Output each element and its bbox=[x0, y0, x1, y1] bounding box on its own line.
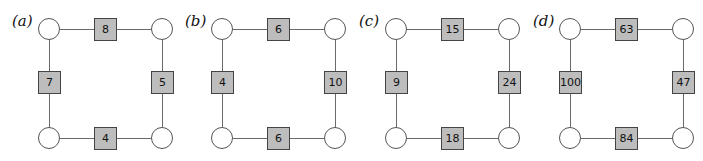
node-bottom-right bbox=[672, 127, 694, 149]
weight-right: 24 bbox=[498, 71, 521, 94]
weight-left: 9 bbox=[385, 71, 408, 94]
weight-left: 4 bbox=[211, 71, 234, 94]
weight-top: 15 bbox=[441, 18, 464, 41]
panel-d: (d) 63 100 47 84 bbox=[521, 0, 695, 161]
node-top-left bbox=[211, 18, 233, 40]
weight-right: 5 bbox=[151, 71, 174, 94]
node-top-right bbox=[672, 18, 694, 40]
node-bottom-left bbox=[211, 127, 233, 149]
weight-top: 6 bbox=[267, 18, 290, 41]
node-top-left bbox=[385, 18, 407, 40]
node-bottom-left bbox=[385, 127, 407, 149]
node-top-right bbox=[151, 18, 173, 40]
weight-right: 47 bbox=[672, 71, 695, 94]
weight-bottom: 18 bbox=[441, 127, 464, 150]
panel-a: (a) 8 7 5 4 bbox=[0, 0, 174, 161]
panel-c: (c) 15 9 24 18 bbox=[347, 0, 521, 161]
weight-right: 10 bbox=[324, 71, 347, 94]
panel-label: (c) bbox=[359, 12, 379, 30]
panel-label: (a) bbox=[12, 12, 33, 30]
node-top-left bbox=[38, 18, 60, 40]
weight-top: 8 bbox=[94, 18, 117, 41]
weight-left: 7 bbox=[38, 71, 61, 94]
weight-bottom: 84 bbox=[615, 127, 638, 150]
node-top-right bbox=[498, 18, 520, 40]
node-bottom-left bbox=[38, 127, 60, 149]
node-bottom-right bbox=[324, 127, 346, 149]
node-top-left bbox=[559, 18, 581, 40]
weight-top: 63 bbox=[615, 18, 638, 41]
panel-label: (d) bbox=[533, 12, 554, 30]
node-bottom-left bbox=[559, 127, 581, 149]
panel-label: (b) bbox=[185, 12, 206, 30]
panel-b: (b) 6 4 10 6 bbox=[173, 0, 347, 161]
weight-bottom: 4 bbox=[94, 127, 117, 150]
weight-left: 100 bbox=[559, 71, 582, 94]
node-bottom-right bbox=[151, 127, 173, 149]
weight-bottom: 6 bbox=[267, 127, 290, 150]
node-bottom-right bbox=[498, 127, 520, 149]
node-top-right bbox=[324, 18, 346, 40]
